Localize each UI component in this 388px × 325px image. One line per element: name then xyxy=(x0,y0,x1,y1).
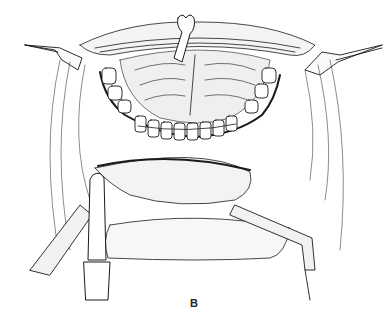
lower-left-retractor xyxy=(30,205,92,275)
right-retractor xyxy=(305,45,382,75)
oral-surgery-illustration xyxy=(0,0,388,325)
panel-label: B xyxy=(0,297,388,309)
left-retractor xyxy=(25,45,82,70)
lower-lip xyxy=(95,157,290,260)
